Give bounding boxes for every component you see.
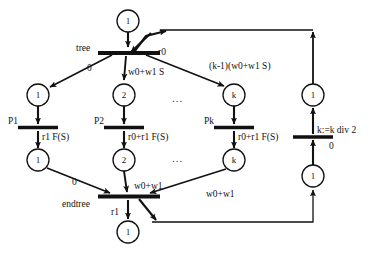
place-token-p-branch-1: 1 <box>36 91 41 100</box>
place-token-p-right-top: 1 <box>311 91 316 100</box>
label-r0: r0 <box>158 48 166 58</box>
ellipsis-lower: ... <box>172 153 183 164</box>
label-r1-f-s: r1 F(S) <box>42 133 69 143</box>
label-weight-zero-bottom: 0 <box>72 178 77 188</box>
arc-r0-into-tree <box>131 33 151 52</box>
place-token-p-done-2: 2 <box>122 156 127 165</box>
arcs <box>38 30 313 222</box>
place-token-p-bottom: 1 <box>126 228 131 237</box>
arc-done2-to-endtree <box>124 171 127 192</box>
label-weight-zero-right: 0 <box>329 142 334 152</box>
arc-tree-to-branch2 <box>124 56 126 80</box>
label-r0-plus-r1-f-s-2: r0+r1 F(S) <box>128 133 168 143</box>
label-w0-plus-w1-k: w0+w1 <box>206 190 235 200</box>
petri-net-diagram: 1 1 2 k 1 1 2 k 1 1 tree r0 0 w0+w1 S (k… <box>0 0 377 254</box>
label-tree: tree <box>76 44 90 54</box>
arc-endtree-to-rail <box>139 199 156 220</box>
label-endtree: endtree <box>62 200 90 210</box>
label-w0-plus-w1-s: w0+w1 S <box>128 68 164 78</box>
arc-done1-to-endtree <box>47 168 110 193</box>
place-token-p-top: 1 <box>126 17 131 26</box>
ellipsis-upper: ... <box>172 93 183 104</box>
label-p1: P1 <box>8 117 18 127</box>
label-k-div-2: k:=k div 2 <box>317 126 356 136</box>
label-p2: P2 <box>94 117 104 127</box>
place-token-p-done-k: k <box>232 156 237 165</box>
label-r1: r1 <box>111 208 119 218</box>
place-token-p-branch-k: k <box>232 91 237 100</box>
place-token-p-right-bot: 1 <box>311 172 316 181</box>
label-w0-plus-w1-mid: w0+w1 <box>134 182 163 192</box>
place-token-p-branch-2: 2 <box>122 91 127 100</box>
arc-tree-to-branch1 <box>50 55 112 87</box>
place-token-p-done-1: 1 <box>36 156 41 165</box>
label-r0-plus-r1-f-s-k: r0+r1 F(S) <box>238 133 278 143</box>
label-pk: Pk <box>204 117 214 127</box>
label-weight-zero-left: 0 <box>87 64 92 74</box>
label-k-minus-1-w0-w1-s: (k-1)(w0+w1 S) <box>209 62 271 72</box>
